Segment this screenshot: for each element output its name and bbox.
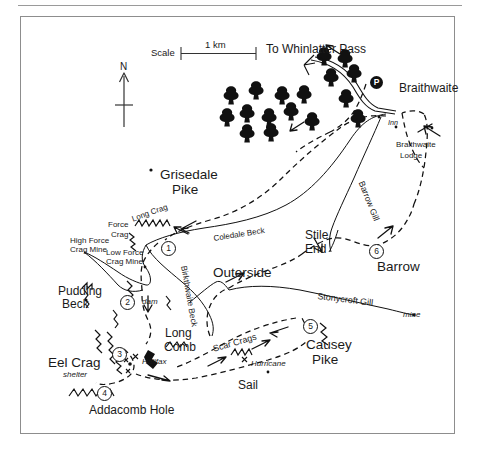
route-marker-3[interactable]: 3 [112,347,127,362]
destination-whinlatter-pass: To Whinlatter Pass [266,43,366,56]
settlement-inn: Inn [388,119,398,127]
peak-outerside: Outerside [213,266,272,281]
route-marker-4[interactable]: 4 [97,386,112,401]
feature-force-crag-line2: Crag [111,231,128,240]
peak-sail: Sail [238,379,258,392]
feature-shelter: shelter [63,371,87,380]
feature-pudding-beck: Pudding [58,285,102,298]
peak-grisedale-pike: Grisedale [160,168,218,183]
settlement-braithwaite: Braithwaite [399,82,458,95]
peak-causey-pike-line2: Pike [312,353,338,368]
feature-addacomb-hole: Addacomb Hole [89,404,174,417]
route-marker-5[interactable]: 5 [303,319,318,334]
feature-hurricane-wreck: Hurricane [251,360,286,369]
feature-pudding-beck-line2: Beck [62,298,89,311]
feature-low-force-crag-mine-line2: Crag Mine [106,258,143,267]
feature-stile-end-line2: End [305,243,326,256]
map-figure: Scale 1 km N To Whinlatter Pass Braithwa… [0,0,484,449]
settlement-braithwaite-lodge: Braithwaite [396,141,436,150]
settlement-braithwaite-lodge-line2: Lodge [400,152,422,161]
north-label: N [120,62,127,73]
feature-high-force-crag-mine-line2: Crag Mine [70,246,107,255]
route-marker-1[interactable]: 1 [161,241,176,256]
feature-halifax-wreck: Halifax [142,358,166,367]
peak-barrow: Barrow [377,260,420,275]
scale-distance-label: 1 km [205,40,226,50]
feature-stile-end: Stile [305,229,328,242]
route-marker-6[interactable]: 6 [369,244,384,259]
feature-dam: dam [142,298,158,307]
scale-label: Scale [151,48,175,58]
parking-icon[interactable]: P [370,76,383,89]
peak-eel-crag: Eel Crag [48,356,101,371]
peak-grisedale-pike-line2: Pike [172,183,198,198]
feature-force-crag: Force [108,221,128,230]
feature-mine: mine [403,311,420,320]
route-marker-2[interactable]: 2 [120,295,135,310]
feature-long-comb: Long [165,327,192,340]
top-horizontal-rule [18,5,462,6]
feature-long-comb-line2: Comb [164,341,196,354]
peak-causey-pike: Causey [306,338,352,353]
